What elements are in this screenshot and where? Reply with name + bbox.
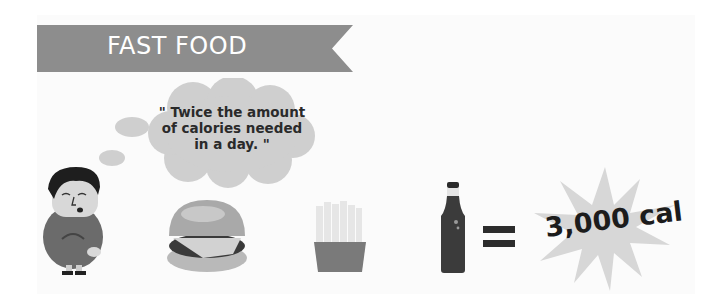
thought-puff-icon bbox=[114, 115, 150, 139]
equals-icon bbox=[483, 226, 515, 248]
thought-line-1: " Twice the amount bbox=[148, 104, 316, 120]
page-title: FAST FOOD bbox=[107, 32, 247, 60]
thought-line-3: in a day. " bbox=[148, 136, 316, 152]
title-banner: FAST FOOD bbox=[37, 25, 353, 72]
thought-text: " Twice the amount of calories needed in… bbox=[148, 104, 316, 152]
sad-man-icon bbox=[40, 165, 110, 275]
thought-bubble: " Twice the amount of calories needed in… bbox=[148, 78, 316, 188]
thought-line-2: of calories needed bbox=[148, 120, 316, 136]
burger-icon bbox=[163, 198, 251, 274]
fries-icon bbox=[308, 200, 370, 274]
soda-bottle-icon bbox=[438, 182, 468, 274]
